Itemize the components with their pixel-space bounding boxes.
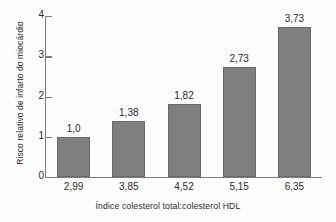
y-tick-label: 4 xyxy=(30,9,44,20)
x-tick-label: 3,85 xyxy=(104,181,154,192)
y-tick-label: 3 xyxy=(30,49,44,60)
plot-area: 1,01,381,822,733,73 xyxy=(46,16,322,177)
x-tick-label: 2,99 xyxy=(49,181,99,192)
bar-value-label: 3,73 xyxy=(274,13,314,24)
y-tick-label: 2 xyxy=(30,90,44,101)
bar xyxy=(278,27,311,177)
bar xyxy=(168,104,201,177)
y-axis-title: Risco relativo de infarto do miocárdio xyxy=(15,5,25,181)
x-axis-title: Índice colesterol total:colesterol HDL xyxy=(0,201,336,211)
bar xyxy=(57,137,90,177)
bar xyxy=(112,121,145,177)
y-tick-label: 1 xyxy=(30,130,44,141)
x-axis-line xyxy=(45,177,322,178)
bar-chart: Risco relativo de infarto do miocárdio 0… xyxy=(0,0,336,222)
bar xyxy=(223,67,256,177)
y-tick-label: 0 xyxy=(30,170,44,181)
x-tick-label: 4,52 xyxy=(159,181,209,192)
bar-value-label: 1,82 xyxy=(164,90,204,101)
bar-value-label: 1,0 xyxy=(54,123,94,134)
bar-value-label: 1,38 xyxy=(109,107,149,118)
bar-value-label: 2,73 xyxy=(219,53,259,64)
y-tick-mark xyxy=(45,177,52,178)
x-tick-label: 6,35 xyxy=(269,181,319,192)
x-tick-label: 5,15 xyxy=(214,181,264,192)
